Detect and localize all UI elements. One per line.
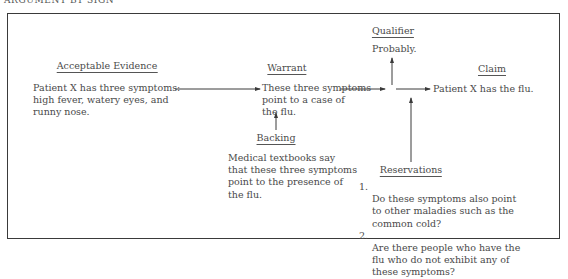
backing-line: Medical textbooks say — [228, 152, 357, 164]
reservation-item: 1.Do these symptoms also point to other … — [359, 181, 520, 230]
reservation-number: 1. — [359, 181, 368, 193]
evidence-heading: Acceptable Evidence — [57, 60, 158, 73]
backing-heading: Backing — [257, 132, 296, 145]
warrant-text: These three symptoms point to a case of … — [262, 82, 371, 119]
reservation-number: 2. — [359, 230, 368, 242]
evidence-line: Patient X has three symptoms: — [33, 82, 180, 94]
reservations-heading: Reservations — [380, 164, 442, 177]
qualifier-heading: Qualifier — [372, 25, 414, 38]
evidence-line: runny nose. — [33, 106, 180, 118]
reservation-item: 2.Are there people who have the flu who … — [359, 230, 520, 279]
warrant-line: These three symptoms — [262, 82, 371, 94]
reservation-text: Do these symptoms also point to other ma… — [372, 193, 516, 228]
backing-line: the flu. — [228, 189, 357, 201]
claim-heading: Claim — [478, 63, 506, 76]
backing-line: point to the presence of — [228, 176, 357, 188]
warrant-line: point to a case of — [262, 94, 371, 106]
reservation-text: Are there people who have the flu who do… — [372, 242, 520, 277]
diagram-title: ARGUMENT BY SIGN — [4, 0, 114, 5]
qualifier-text: Probably. — [372, 43, 417, 55]
evidence-text: Patient X has three symptoms: high fever… — [33, 82, 180, 119]
backing-line: that these three symptoms — [228, 164, 357, 176]
warrant-line: the flu. — [262, 106, 371, 118]
claim-text: Patient X has the flu. — [433, 83, 534, 95]
warrant-heading: Warrant — [267, 62, 306, 75]
reservations-list: 1.Do these symptoms also point to other … — [359, 181, 520, 279]
backing-text: Medical textbooks say that these three s… — [228, 152, 357, 201]
evidence-line: high fever, watery eyes, and — [33, 94, 180, 106]
